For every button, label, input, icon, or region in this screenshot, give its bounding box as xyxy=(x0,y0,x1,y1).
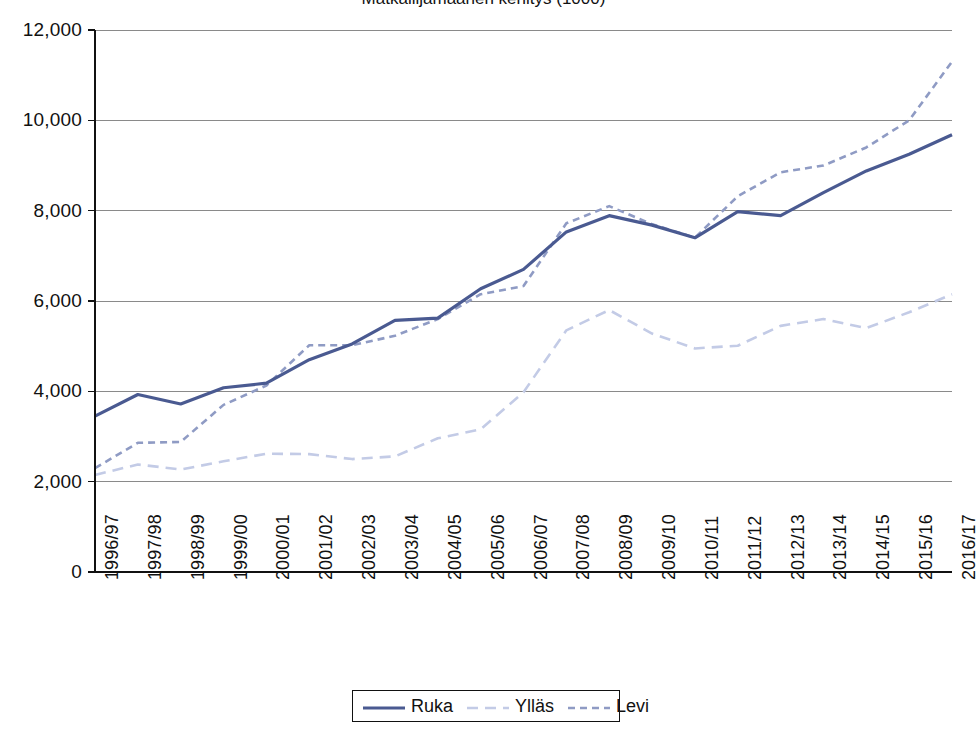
x-tick-label: 2008/09 xyxy=(616,514,637,580)
x-tick-label: 1996/97 xyxy=(102,514,123,580)
x-tick-label: 2012/13 xyxy=(788,514,809,580)
legend-item-ylls: Ylläs xyxy=(466,696,554,717)
x-tick-label: 2010/11 xyxy=(702,516,723,580)
legend-label: Ruka xyxy=(411,696,453,717)
x-tick-label: 2001/02 xyxy=(316,514,337,580)
x-tick-label: 2003/04 xyxy=(402,514,423,580)
x-tick-label: 2007/08 xyxy=(573,514,594,580)
x-tick-label: 2000/01 xyxy=(273,514,294,580)
legend-swatch xyxy=(362,700,406,712)
legend-swatch xyxy=(466,700,510,712)
legend-label: Ylläs xyxy=(515,696,554,717)
x-tick-label: 2002/03 xyxy=(359,514,380,580)
legend-item-ruka: Ruka xyxy=(362,696,453,717)
x-tick-label: 2005/06 xyxy=(488,514,509,580)
x-tick-label: 1999/00 xyxy=(231,514,252,580)
legend-swatch xyxy=(567,700,611,712)
x-tick-label: 2014/15 xyxy=(873,514,894,580)
x-tick-label: 2011/12 xyxy=(745,516,766,580)
legend-item-levi: Levi xyxy=(567,696,649,717)
x-tick-label: 2009/10 xyxy=(659,514,680,580)
x-tick-label: 2004/05 xyxy=(445,514,466,580)
x-tick-label: 1998/99 xyxy=(188,514,209,580)
x-tick-label: 1997/98 xyxy=(145,514,166,580)
x-tick-label: 2006/07 xyxy=(531,514,552,580)
chart-legend: RukaYlläsLevi xyxy=(352,690,620,722)
legend-label: Levi xyxy=(616,696,649,717)
x-tick-label: 2015/16 xyxy=(916,514,937,580)
x-tick-label: 2013/14 xyxy=(830,514,851,580)
x-tick-label: 2016/17 xyxy=(959,514,980,580)
